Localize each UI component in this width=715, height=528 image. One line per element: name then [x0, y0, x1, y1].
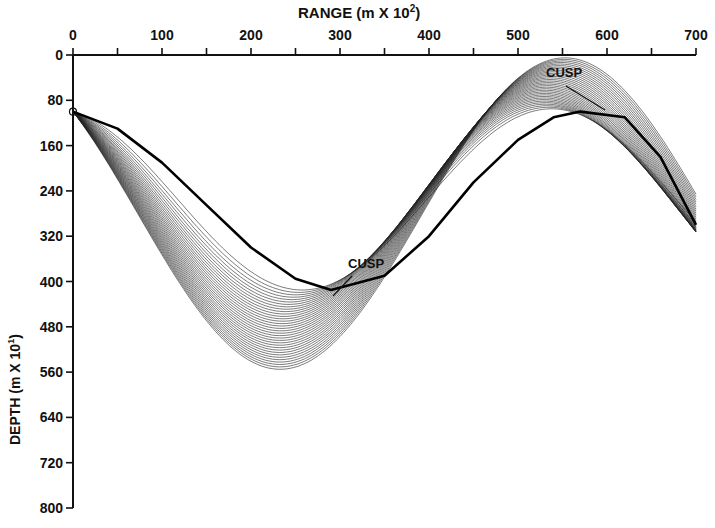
y-tick-label: 640: [40, 409, 64, 425]
ray-path: [73, 87, 696, 323]
x-tick-label: 600: [595, 27, 619, 43]
x-tick-label: 200: [239, 27, 263, 43]
ray-path: [73, 106, 696, 295]
x-tick-label: 300: [328, 27, 352, 43]
y-tick-label: 480: [40, 319, 64, 335]
ray-path: [73, 59, 696, 367]
x-tick-label: 100: [150, 27, 174, 43]
y-tick-label: 560: [40, 364, 64, 380]
ray-path: [73, 78, 696, 338]
y-tick-label: 400: [40, 274, 64, 290]
y-tick-label: 240: [40, 183, 64, 199]
ray-path: [73, 63, 696, 363]
y-tick-label: 800: [40, 500, 64, 516]
ray-path: [73, 104, 696, 297]
ray-path: [73, 100, 696, 305]
x-axis-title: RANGE (m X 102): [298, 3, 420, 21]
y-axis-title: DEPTH (m X 101): [6, 334, 23, 445]
cusp-label: CUSP: [546, 65, 582, 80]
x-tick-label: 0: [69, 27, 77, 43]
ray-path: [73, 103, 696, 300]
ray-path: [73, 83, 696, 331]
ray-trace-chart: 0100200300400500600700080160240320400480…: [0, 0, 715, 528]
cusp-label: CUSP: [348, 256, 384, 271]
x-tick-label: 700: [684, 27, 708, 43]
x-tick-label: 400: [417, 27, 441, 43]
y-tick-label: 80: [47, 92, 63, 108]
y-tick-label: 160: [40, 138, 64, 154]
y-tick-label: 0: [55, 47, 63, 63]
ray-path: [73, 69, 696, 353]
y-tick-label: 720: [40, 455, 64, 471]
ray-paths: [73, 58, 696, 370]
ray-path: [73, 72, 696, 348]
x-tick-label: 500: [506, 27, 530, 43]
ray-path: [73, 101, 696, 302]
y-tick-label: 320: [40, 228, 64, 244]
